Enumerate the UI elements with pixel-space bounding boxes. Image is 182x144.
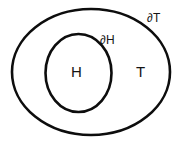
outer-boundary-label: ∂T [147,12,160,24]
outer-boundary-curve [12,9,170,135]
nested-regions-diagram: H T ∂H ∂T [0,0,182,144]
inner-boundary-label: ∂H [100,34,115,46]
inner-region-label: H [71,64,82,79]
outer-region-label: T [136,64,145,79]
